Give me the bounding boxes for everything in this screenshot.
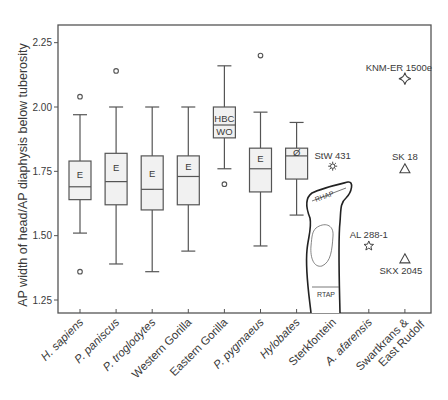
point-label: StW 431 xyxy=(314,150,350,161)
point-al-288-1: AL 288-1 xyxy=(350,229,388,250)
box-label-top: HBC xyxy=(214,113,234,124)
humerus-diagram: RHAPRTAP xyxy=(306,182,351,313)
box-h-sapiens: E xyxy=(69,94,91,274)
box-label: E xyxy=(257,153,263,164)
outlier-circle xyxy=(78,269,83,274)
point-stw-431: StW 431 xyxy=(314,150,350,171)
x-axis: H. sapiensP. paniscusP. troglodytesWeste… xyxy=(39,308,428,382)
point-label: SKX 2045 xyxy=(380,265,423,276)
y-axis-title: AP width of head/AP diaphysis below tube… xyxy=(16,42,30,306)
box-label: E xyxy=(77,169,83,180)
box-label-bottom: WO xyxy=(216,126,232,137)
triangle-icon xyxy=(400,164,410,173)
box-plot-chart: AP width of head/AP diaphysis below tube… xyxy=(0,0,448,400)
outlier-circle xyxy=(78,94,83,99)
point-label: KNM-ER 1500e xyxy=(366,62,433,73)
outlier-circle xyxy=(258,53,263,58)
y-axis-label: AP width of head/AP diaphysis below tube… xyxy=(16,42,30,306)
box-label: E xyxy=(149,168,155,179)
point-label: SK 18 xyxy=(392,151,418,162)
triangle-icon xyxy=(400,254,410,263)
box-p-pygmaeus: E xyxy=(250,53,272,246)
y-tick-label: 1.75 xyxy=(33,166,53,177)
box-label: E xyxy=(185,161,191,172)
star-icon xyxy=(364,241,374,250)
box-p-troglodytes: E xyxy=(141,107,163,272)
box-series: EEEEHBCWOEØ xyxy=(69,53,308,274)
rtap-label: RTAP xyxy=(317,291,335,298)
outlier-circle xyxy=(114,69,119,74)
diamond-icon xyxy=(399,73,411,85)
box-p-paniscus: E xyxy=(105,69,127,264)
point-skx-2045: SKX 2045 xyxy=(380,254,423,276)
box-hylobates: Ø xyxy=(286,122,308,215)
y-tick-label: 1.25 xyxy=(33,295,53,306)
box-label: Ø xyxy=(293,147,301,158)
y-axis: 1.251.501.752.002.25 xyxy=(33,37,58,305)
y-tick-label: 2.00 xyxy=(33,102,53,113)
point-label: AL 288-1 xyxy=(350,229,388,240)
y-tick-label: 2.25 xyxy=(33,37,53,48)
y-tick-label: 1.50 xyxy=(33,230,53,241)
sun-icon xyxy=(331,164,335,168)
box-label: E xyxy=(113,162,119,173)
outlier-circle xyxy=(222,182,227,187)
box-western-gorilla: E xyxy=(177,107,199,251)
box-eastern-gorilla: HBCWO xyxy=(213,66,235,187)
point-sk-18: SK 18 xyxy=(392,151,418,173)
point-knm-er-1500e: KNM-ER 1500e xyxy=(366,62,433,85)
